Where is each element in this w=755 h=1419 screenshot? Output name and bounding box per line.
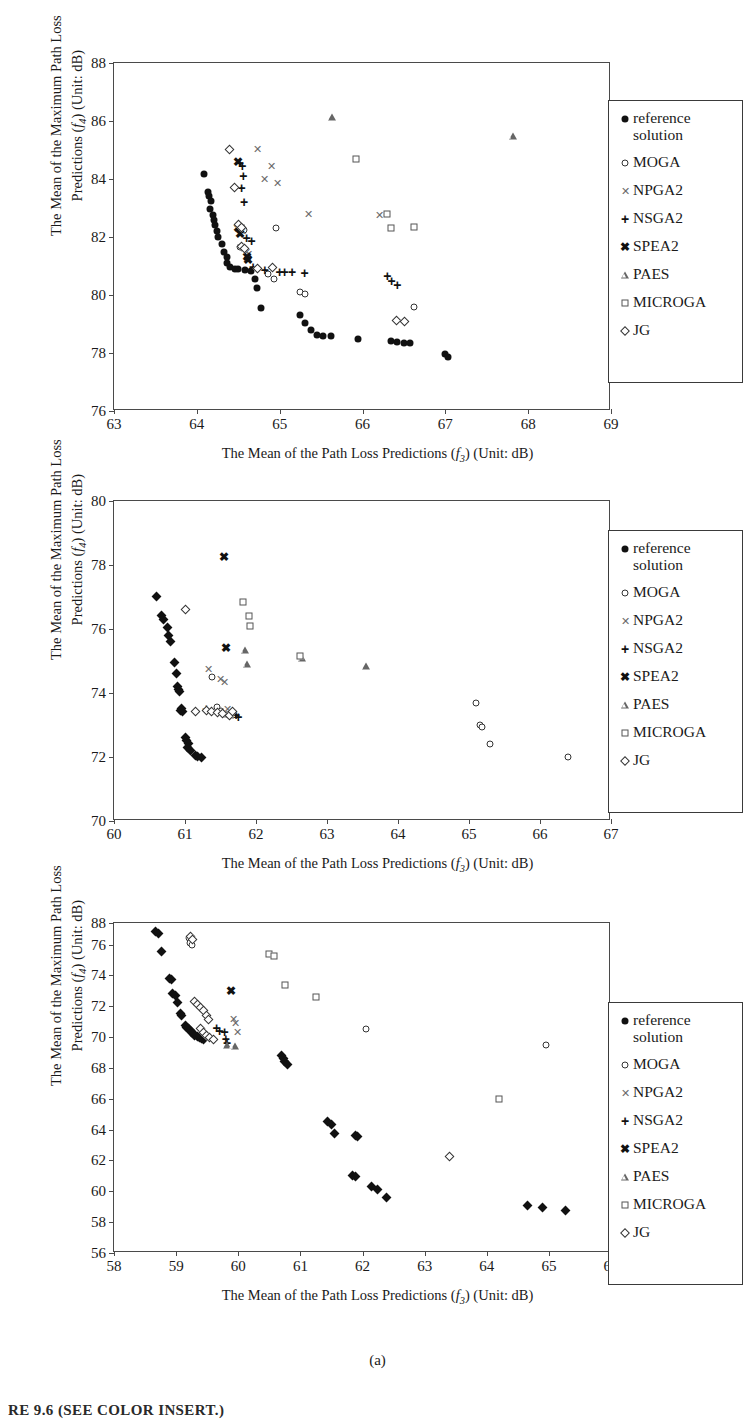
x-axis-tick xyxy=(425,1251,426,1256)
legend-marker: ✕ xyxy=(617,182,633,199)
y-axis-tick xyxy=(109,237,114,238)
legend-item-microga[interactable]: MICROGA xyxy=(617,724,735,752)
legend-item-microga[interactable]: MICROGA xyxy=(617,1196,735,1224)
legend-item-jg[interactable]: JG xyxy=(617,1224,735,1252)
legend-item-jg[interactable]: JG xyxy=(617,322,735,350)
legend-item-spea2[interactable]: ✖SPEA2 xyxy=(617,1140,735,1168)
marker-circle-filled xyxy=(444,354,451,361)
legend-label: NPGA2 xyxy=(633,182,683,199)
plot-area: ✕✕✕✕✕+++✖✖7072747678806061626364656667 xyxy=(113,500,610,820)
legend-label: JG xyxy=(633,1224,650,1241)
marker-circle-filled xyxy=(297,312,304,319)
y-axis-tick xyxy=(109,501,114,502)
y-axis-tick xyxy=(109,1222,114,1223)
legend-item-npga2[interactable]: ✕NPGA2 xyxy=(617,1084,735,1112)
data-point xyxy=(410,303,417,310)
data-point xyxy=(388,225,395,232)
x-axis-tick-label: 68 xyxy=(521,417,536,432)
legend-item-paes[interactable]: PAES xyxy=(617,266,735,294)
marker-square-open xyxy=(496,1095,503,1102)
data-point xyxy=(319,332,326,339)
y-axis-tick xyxy=(109,179,114,180)
legend-label: NSGA2 xyxy=(633,640,683,657)
data-point xyxy=(509,132,517,139)
legend-item-spea2[interactable]: ✖SPEA2 xyxy=(617,668,735,696)
x-axis-tick xyxy=(528,409,529,414)
data-point xyxy=(288,1064,295,1071)
data-point xyxy=(281,981,288,988)
marker-triangle-open xyxy=(231,1043,239,1050)
marker-diamond-filled xyxy=(172,669,182,679)
y-axis-tick-label: 58 xyxy=(91,1215,106,1230)
marker-diamond-open xyxy=(620,756,630,766)
legend-item-jg[interactable]: JG xyxy=(617,752,735,780)
data-point xyxy=(215,234,222,241)
marker-circle-open xyxy=(622,1062,629,1069)
x-axis-tick-label: 69 xyxy=(604,417,619,432)
legend-item-npga2[interactable]: ✕NPGA2 xyxy=(617,182,735,210)
x-axis-tick xyxy=(197,409,198,414)
y-axis-tick xyxy=(109,945,114,946)
marker-triangle-open xyxy=(243,661,251,668)
data-point xyxy=(157,597,164,604)
legend-item-nsga2[interactable]: +NSGA2 xyxy=(617,210,735,238)
legend-item-reference[interactable]: reference solution xyxy=(617,110,735,154)
data-point xyxy=(218,241,225,248)
legend-item-spea2[interactable]: ✖SPEA2 xyxy=(617,238,735,266)
data-point xyxy=(362,1026,369,1033)
legend-label: MICROGA xyxy=(633,294,706,311)
legend-item-nsga2[interactable]: +NSGA2 xyxy=(617,1112,735,1140)
y-axis-title: The Mean of the Maximum Path LossPredict… xyxy=(46,865,90,1086)
legend-marker: ✖ xyxy=(617,1140,633,1157)
marker-diamond-filled xyxy=(523,1201,533,1211)
legend-item-paes[interactable]: PAES xyxy=(617,1168,735,1196)
marker-circle-open xyxy=(410,303,417,310)
y-axis-tick-label: 80 xyxy=(91,288,106,303)
data-point xyxy=(358,1137,365,1144)
data-point xyxy=(301,290,308,297)
x-axis-tick xyxy=(363,409,364,414)
legend-item-moga[interactable]: MOGA xyxy=(617,1056,735,1084)
y-axis-tick-label: 66 xyxy=(91,1091,106,1106)
plot-canvas: ✕✕✕+++++✖ xyxy=(114,923,609,1251)
legend-item-npga2[interactable]: ✕NPGA2 xyxy=(617,612,735,640)
marker-square-open xyxy=(240,598,247,605)
legend-label: NSGA2 xyxy=(633,1112,683,1129)
legend-item-reference[interactable]: reference solution xyxy=(617,540,735,584)
marker-square-open xyxy=(245,613,252,620)
legend-item-paes[interactable]: PAES xyxy=(617,696,735,724)
data-point xyxy=(362,662,370,669)
data-point xyxy=(444,354,451,361)
data-point xyxy=(251,276,258,283)
legend-item-moga[interactable]: MOGA xyxy=(617,154,735,182)
x-axis-tick xyxy=(327,819,328,824)
x-axis-tick-label: 63 xyxy=(320,827,335,842)
data-point xyxy=(209,1020,216,1027)
legend-marker: ✖ xyxy=(617,238,633,255)
marker-diamond-filled xyxy=(353,1132,363,1142)
marker-circle-filled xyxy=(622,116,629,123)
y-axis-tick-label: 60 xyxy=(91,1184,106,1199)
marker-triangle-open xyxy=(509,132,517,139)
data-point xyxy=(213,1040,220,1047)
chart-panel-bottom: ✕✕✕+++++✖5658606264666870727476885859606… xyxy=(0,900,755,1320)
x-axis-tick xyxy=(300,1251,301,1256)
data-point xyxy=(328,333,335,340)
data-point xyxy=(271,953,278,960)
data-point xyxy=(312,994,319,1001)
marker-circle-filled xyxy=(301,319,308,326)
legend-item-nsga2[interactable]: +NSGA2 xyxy=(617,640,735,668)
marker-circle-filled xyxy=(319,332,326,339)
marker-circle-filled xyxy=(258,305,265,312)
legend-item-microga[interactable]: MICROGA xyxy=(617,294,735,322)
x-axis-tick-label: 66 xyxy=(355,417,370,432)
data-point xyxy=(245,613,252,620)
x-axis-tick-label: 62 xyxy=(355,1259,370,1274)
legend-label: MOGA xyxy=(633,1056,680,1073)
legend-item-reference[interactable]: reference solution xyxy=(617,1012,735,1056)
marker-circle-open xyxy=(478,723,485,730)
y-axis-tick xyxy=(109,1130,114,1131)
data-point xyxy=(171,642,178,649)
plot-area: ✕✕✕+++++✖5658606264666870727476885859606… xyxy=(113,922,610,1252)
legend-item-moga[interactable]: MOGA xyxy=(617,584,735,612)
